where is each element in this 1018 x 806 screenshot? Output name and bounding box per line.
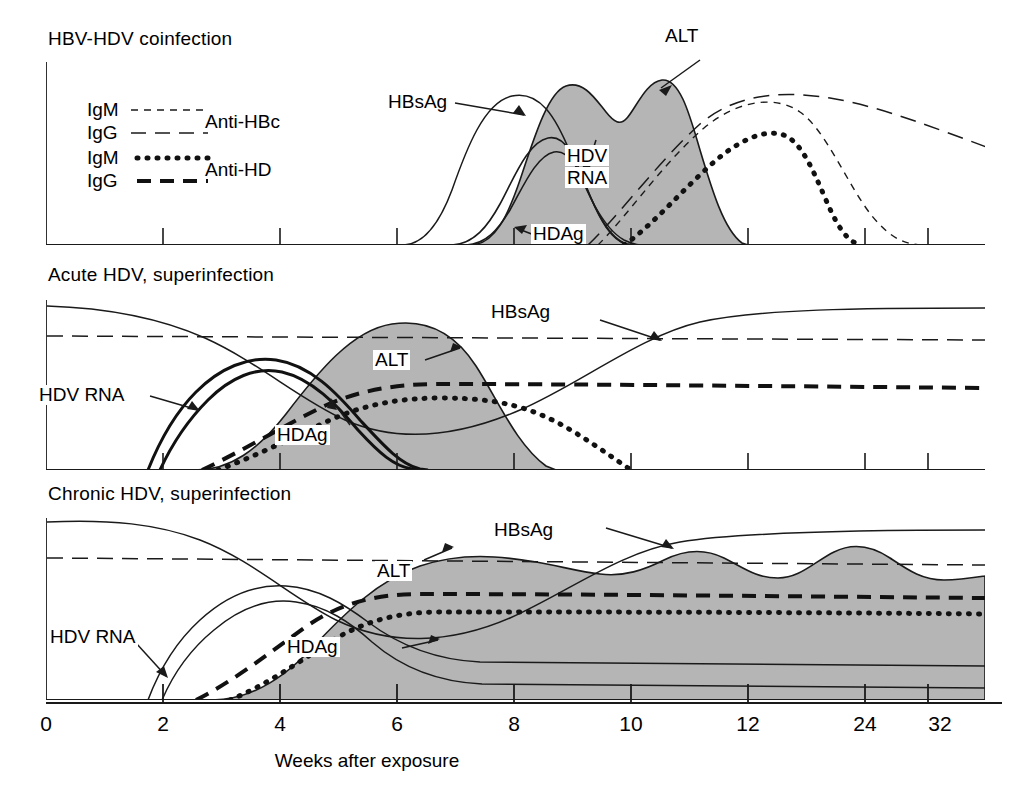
x-axis-title: Weeks after exposure <box>275 750 459 772</box>
panel-1-hdag-label: HDAg <box>531 224 586 244</box>
panel-3-hbsag-label: HBsAg <box>492 520 555 540</box>
figure-root: HBV-HDV coinfection Acute HDV, superinfe… <box>0 0 1018 806</box>
panel-3-title: Chronic HDV, superinfection <box>48 483 291 505</box>
panel-1-title: HBV-HDV coinfection <box>48 28 232 50</box>
panel-2-igg-antihbc-line <box>47 336 985 340</box>
panel-2-hbsag-label: HBsAg <box>489 302 552 322</box>
x-tick-label-6: 12 <box>736 712 759 736</box>
legend-anti-hbc-group-label: Anti-HBc <box>205 111 280 133</box>
x-tick-label-2: 4 <box>274 712 286 736</box>
legend-lines <box>131 110 210 181</box>
panel-3-alt-label: ALT <box>375 561 412 581</box>
panel-1-alt-label: ALT <box>663 26 700 46</box>
panel-1-hdv-rna-label-line2: RNA <box>565 167 609 188</box>
panel-1-plot <box>46 62 1000 245</box>
x-tick-label-7: 24 <box>853 712 876 736</box>
x-tick-label-8: 32 <box>928 712 951 736</box>
legend-igm-antihd-label: IgM <box>87 147 119 169</box>
legend-igg-antihd-label: IgG <box>87 170 118 192</box>
panel-2-hbsag-curve <box>47 306 985 434</box>
panel-2-hdag-label: HDAg <box>275 425 330 445</box>
x-tick-label-1: 2 <box>157 712 169 736</box>
panel-3-hdag-label: HDAg <box>285 637 340 657</box>
x-tick-label-0: 0 <box>40 712 52 736</box>
x-tick-label-5: 10 <box>619 712 642 736</box>
panel-1-hbsag-label: HBsAg <box>386 92 449 112</box>
panel-2-hdv-rna-label: HDV RNA <box>37 385 127 405</box>
panel-3-hdv-rna-label: HDV RNA <box>48 627 138 647</box>
x-tick-label-4: 8 <box>508 712 520 736</box>
panel-3-alt-area <box>212 546 985 700</box>
panel-1-hdv-rna-label-line1: HDV <box>565 145 609 166</box>
panel-2-plot <box>46 300 985 470</box>
legend-anti-hd-group-label: Anti-HD <box>205 159 272 181</box>
panel-2-alt-label: ALT <box>373 350 410 370</box>
legend-igg-antihbc-label: IgG <box>87 122 118 144</box>
serology-chart-svg <box>0 0 1018 806</box>
x-tick-label-3: 6 <box>391 712 403 736</box>
panel-2-title: Acute HDV, superinfection <box>48 264 274 286</box>
panel-3-plot <box>46 518 985 700</box>
legend-igm-antihbc-label: IgM <box>87 99 119 121</box>
